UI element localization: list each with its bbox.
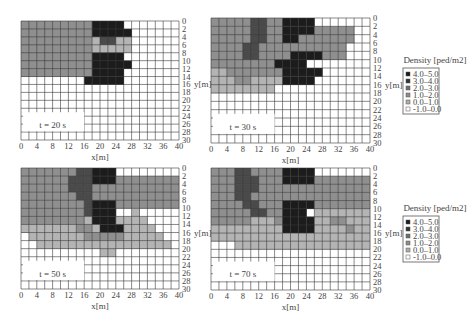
heatmap-cell <box>275 217 283 225</box>
x-tick-label: 0 <box>19 290 23 300</box>
heatmap-cell <box>259 184 267 192</box>
heatmap-cell <box>259 176 267 184</box>
heatmap-cell <box>267 60 275 69</box>
heatmap-cell <box>29 233 37 241</box>
heatmap-cell <box>124 61 132 69</box>
heatmap-cell <box>259 68 267 77</box>
heatmap-cell <box>61 200 69 208</box>
heatmap-cell <box>45 168 53 176</box>
x-tick-label: 4 <box>225 291 230 301</box>
heatmap-cell <box>21 37 29 45</box>
heatmap-cell <box>338 233 346 241</box>
heatmap-cell <box>84 45 92 53</box>
heatmap-cell <box>314 217 322 225</box>
heatmap-cell <box>314 51 322 60</box>
heatmap-cell <box>314 209 322 217</box>
y-axis-label: y[m] <box>194 228 212 238</box>
heatmap-cell <box>267 26 275 35</box>
heatmap-cell <box>21 200 29 208</box>
heatmap-cell <box>163 192 171 200</box>
heatmap-cell <box>267 85 275 94</box>
heatmap-cell <box>100 216 108 224</box>
heatmap-cell <box>100 224 108 232</box>
heatmap-cell <box>235 18 243 27</box>
heatmap-cell <box>68 69 76 77</box>
heatmap-cell <box>61 208 69 216</box>
heatmap-cell <box>362 217 370 225</box>
heatmap-cell <box>108 69 116 77</box>
heatmap-cell <box>259 51 267 60</box>
heatmap-cell <box>291 35 299 44</box>
x-tick-label: 12 <box>254 291 263 301</box>
heatmap-cell <box>314 68 322 77</box>
x-tick-label: 32 <box>143 141 152 151</box>
heatmap-cell <box>362 233 370 241</box>
heatmap-cell <box>362 201 370 209</box>
density-panel-1: t = 20 s0481216202428323640x[m]024681012… <box>19 16 212 162</box>
heatmap-cell <box>53 192 61 200</box>
heatmap-cell <box>61 216 69 224</box>
heatmap-cell <box>100 45 108 53</box>
heatmap-cell <box>275 26 283 35</box>
heatmap-cell <box>92 176 100 184</box>
heatmap-cell <box>53 45 61 53</box>
heatmap-cell <box>29 168 37 176</box>
heatmap-cell <box>219 18 227 27</box>
heatmap-cell <box>330 201 338 209</box>
heatmap-cell <box>291 60 299 69</box>
x-tick-label: 0 <box>209 144 213 154</box>
heatmap-cell <box>251 60 259 69</box>
heatmap-cell <box>29 200 37 208</box>
heatmap-cell <box>68 233 76 241</box>
heatmap-cell <box>219 35 227 44</box>
x-tick-label: 8 <box>50 290 54 300</box>
heatmap-cell <box>338 176 346 184</box>
heatmap-cell <box>346 209 354 217</box>
heatmap-cell <box>283 35 291 44</box>
heatmap-cell <box>354 176 362 184</box>
heatmap-cell <box>155 200 163 208</box>
heatmap-cell <box>251 217 259 225</box>
heatmap-cell <box>108 208 116 216</box>
heatmap-cell <box>108 176 116 184</box>
heatmap-cell <box>76 168 84 176</box>
heatmap-cell <box>275 68 283 77</box>
heatmap-cell <box>108 200 116 208</box>
heatmap-cell <box>354 184 362 192</box>
heatmap-cell <box>338 35 346 44</box>
heatmap-cell <box>132 241 140 249</box>
heatmap-cell <box>92 224 100 232</box>
heatmap-cell <box>21 69 29 77</box>
heatmap-cell <box>338 51 346 60</box>
heatmap-cell <box>330 209 338 217</box>
x-tick-label: 28 <box>127 141 136 151</box>
heatmap-cell <box>76 53 84 61</box>
heatmap-cell <box>37 241 45 249</box>
heatmap-cell <box>314 192 322 200</box>
x-tick-label: 12 <box>254 144 263 154</box>
heatmap-cell <box>124 184 132 192</box>
heatmap-cell <box>291 209 299 217</box>
y-tick-label: 30 <box>373 138 382 148</box>
heatmap-cell <box>243 76 251 85</box>
heatmap-cell <box>283 60 291 69</box>
heatmap-cell <box>267 225 275 233</box>
heatmap-cell <box>267 35 275 44</box>
heatmap-cell <box>84 53 92 61</box>
heatmap-cell <box>283 43 291 52</box>
heatmap-cell <box>108 184 116 192</box>
heatmap-cell <box>92 29 100 37</box>
heatmap-cell <box>155 192 163 200</box>
heatmap-cell <box>283 68 291 77</box>
heatmap-cell <box>61 192 69 200</box>
heatmap-cell <box>92 192 100 200</box>
heatmap-cell <box>92 168 100 176</box>
heatmap-cell <box>53 208 61 216</box>
heatmap-cell <box>147 184 155 192</box>
y-axis-label: y[m] <box>385 228 403 238</box>
heatmap-cell <box>124 224 132 232</box>
legend-swatch <box>406 220 410 224</box>
heatmap-cell <box>37 233 45 241</box>
heatmap-cell <box>291 176 299 184</box>
heatmap-cell <box>243 35 251 44</box>
